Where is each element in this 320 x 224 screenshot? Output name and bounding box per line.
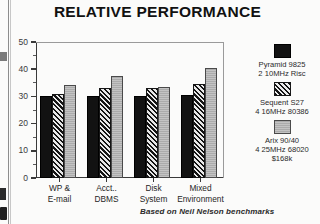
scan-edge-artifacts xyxy=(0,0,12,224)
x-axis-category-label: MixedEnvironment xyxy=(166,183,236,204)
category-label-line: Environment xyxy=(166,194,236,205)
y-axis-tick-label: 40 xyxy=(6,64,28,74)
bar-1-0 xyxy=(52,94,64,178)
bar-1-3 xyxy=(193,84,205,178)
y-axis-tick-label: 50 xyxy=(6,37,28,47)
plot-area: 01020304050 xyxy=(36,42,224,178)
y-axis-minor-tick xyxy=(33,164,36,165)
y-axis-minor-tick xyxy=(33,137,36,138)
y-axis-tick xyxy=(31,96,36,98)
legend-swatch-icon xyxy=(274,82,291,96)
scan-line xyxy=(8,0,9,224)
plot-frame-top xyxy=(36,42,224,43)
y-axis-tick xyxy=(31,177,36,179)
bar-2-3 xyxy=(205,68,217,178)
y-axis-minor-tick xyxy=(33,82,36,83)
y-axis-tick xyxy=(31,123,36,125)
x-axis-tick xyxy=(200,178,202,182)
scan-line-secondary xyxy=(10,0,11,224)
legend-label-line: 2 10MHz Risc xyxy=(244,69,320,78)
legend-entry-1: Sequent S274 16MHz 80386 xyxy=(244,82,320,116)
x-axis-tick xyxy=(59,178,61,182)
y-axis-tick xyxy=(31,68,36,70)
legend-label-line: Arix 90/40 xyxy=(244,136,320,145)
y-axis-tick xyxy=(31,150,36,152)
legend-label-line: 4 25MHz 68020 xyxy=(244,145,320,154)
scan-artifact xyxy=(0,207,7,220)
bar-2-2 xyxy=(158,87,170,178)
y-axis-tick xyxy=(31,41,36,43)
x-axis-tick xyxy=(106,178,108,182)
legend-swatch-icon xyxy=(274,44,291,58)
x-axis-tick xyxy=(153,178,155,182)
chart-legend: Pyramid 98252 10MHz RiscSequent S274 16M… xyxy=(244,44,320,167)
bar-0-3 xyxy=(181,95,193,178)
y-axis-tick-label: 20 xyxy=(6,118,28,128)
plot-frame-right xyxy=(223,42,224,178)
bar-0-2 xyxy=(134,96,146,178)
y-axis-tick-label: 0 xyxy=(6,173,28,183)
y-axis-tick-label: 10 xyxy=(6,145,28,155)
y-axis-tick-label: 30 xyxy=(6,91,28,101)
legend-swatch-icon xyxy=(274,120,291,134)
bar-1-2 xyxy=(146,88,158,178)
legend-label-line: $168k xyxy=(244,154,320,163)
legend-entry-0: Pyramid 98252 10MHz Risc xyxy=(244,44,320,78)
bar-0-1 xyxy=(87,96,99,178)
source-note: Based on Neil Nelson benchmarks xyxy=(140,207,318,216)
legend-entry-2: Arix 90/404 25MHz 68020$168k xyxy=(244,120,320,163)
y-axis-minor-tick xyxy=(33,55,36,56)
legend-label-line: Pyramid 9825 xyxy=(244,60,320,69)
bar-2-0 xyxy=(64,85,76,178)
bar-1-1 xyxy=(99,88,111,178)
chart-title: RELATIVE PERFORMANCE xyxy=(40,3,275,21)
bar-0-0 xyxy=(40,96,52,178)
legend-label-line: Sequent S27 xyxy=(244,98,320,107)
scan-artifact xyxy=(0,188,6,200)
y-axis-minor-tick xyxy=(33,110,36,111)
bar-2-1 xyxy=(111,76,123,178)
category-label-line: Mixed xyxy=(166,183,236,194)
scan-artifact xyxy=(0,52,7,61)
legend-label-line: 4 16MHz 80386 xyxy=(244,107,320,116)
